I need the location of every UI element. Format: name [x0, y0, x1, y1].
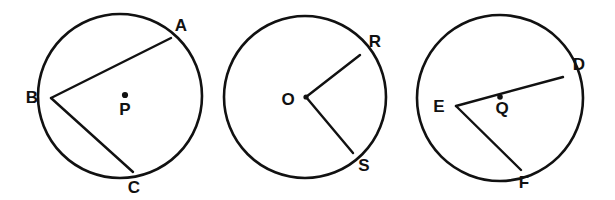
circle-o-point-label-r: R	[369, 32, 381, 51]
circle-q-chord-e-d	[456, 77, 563, 106]
circle-p-center-label: P	[119, 100, 130, 119]
circle-p: PABC	[26, 14, 202, 197]
circle-o-radius-o-r	[306, 55, 360, 97]
geometry-figure-canvas: PABCORSQDEF	[0, 0, 615, 200]
circles-group: PABCORSQDEF	[26, 14, 585, 197]
circle-o-point-label-s: S	[358, 156, 369, 175]
geometry-figure-container: PABCORSQDEF	[0, 0, 615, 200]
circle-q-center-label: Q	[495, 99, 508, 118]
circle-p-center-dot	[122, 92, 128, 98]
circle-q-point-label-f: F	[519, 173, 529, 192]
circle-q-chord-e-f	[456, 106, 521, 170]
circle-p-point-label-c: C	[128, 178, 140, 197]
circle-o-center-dot	[303, 94, 308, 99]
circle-p-outline	[38, 14, 202, 178]
circle-q-point-label-e: E	[433, 97, 444, 116]
circle-o-radius-o-s	[306, 97, 353, 153]
circle-p-point-label-a: A	[175, 16, 187, 35]
circle-q: QDEF	[417, 15, 585, 192]
circle-q-point-label-d: D	[573, 55, 585, 74]
circle-o-center-label: O	[281, 90, 294, 109]
circle-p-chord-b-a	[51, 38, 171, 98]
circle-o: ORS	[224, 16, 386, 178]
circle-p-point-label-b: B	[26, 88, 38, 107]
